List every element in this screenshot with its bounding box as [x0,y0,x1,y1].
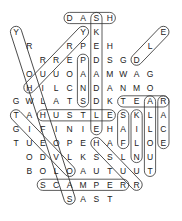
grid-letter[interactable]: F [117,137,129,149]
grid-letter[interactable]: T [10,137,22,149]
grid-letter[interactable]: C [50,179,62,191]
grid-letter[interactable]: S [37,179,49,191]
grid-letter[interactable]: O [23,151,35,163]
grid-letter[interactable]: P [64,137,76,149]
grid-letter[interactable]: L [144,123,156,135]
grid-letter[interactable]: S [90,12,102,24]
grid-letter[interactable]: N [77,82,89,94]
grid-letter[interactable]: E [104,179,116,191]
grid-letter[interactable]: B [23,165,35,177]
grid-letter[interactable]: U [90,165,102,177]
grid-letter[interactable]: O [64,165,76,177]
grid-letter[interactable]: L [90,109,102,121]
grid-letter[interactable]: U [37,68,49,80]
grid-letter[interactable]: T [10,109,22,121]
grid-letter[interactable]: L [50,82,62,94]
grid-letter[interactable]: R [37,54,49,66]
grid-letter[interactable]: H [90,137,102,149]
grid-letter[interactable]: U [117,165,129,177]
grid-letter[interactable]: O [37,165,49,177]
grid-letter[interactable]: S [77,95,89,107]
grid-letter[interactable]: I [23,123,35,135]
grid-letter[interactable]: K [90,26,102,38]
grid-letter[interactable]: G [117,54,129,66]
grid-letter[interactable]: S [104,151,116,163]
grid-letter[interactable]: N [131,151,143,163]
grid-letter[interactable]: U [144,151,156,163]
grid-letter[interactable]: H [104,12,116,24]
grid-letter[interactable]: W [23,95,35,107]
grid-letter[interactable]: E [157,26,169,38]
grid-letter[interactable]: F [37,123,49,135]
grid-letter[interactable]: A [90,68,102,80]
grid-letter[interactable]: S [117,109,129,121]
grid-letter[interactable]: R [157,95,169,107]
grid-letter[interactable]: E [37,137,49,149]
grid-letter[interactable]: M [104,68,116,80]
grid-letter[interactable]: R [131,179,143,191]
grid-letter[interactable]: S [90,193,102,205]
grid-letter[interactable]: L [144,109,156,121]
grid-letter[interactable]: R [64,40,76,52]
grid-letter[interactable]: T [117,95,129,107]
grid-letter[interactable]: U [50,68,62,80]
grid-letter[interactable]: A [104,137,116,149]
grid-letter[interactable]: C [64,82,76,94]
grid-letter[interactable]: U [23,137,35,149]
grid-letter[interactable]: E [90,40,102,52]
grid-letter[interactable]: A [77,165,89,177]
grid-letter[interactable]: G [10,123,22,135]
grid-letter[interactable]: L [144,40,156,52]
grid-letter[interactable]: T [104,165,116,177]
grid-letter[interactable]: A [117,123,129,135]
grid-letter[interactable]: E [104,109,116,121]
grid-letter[interactable]: T [144,165,156,177]
grid-letter[interactable]: D [90,95,102,107]
grid-letter[interactable]: M [131,82,143,94]
grid-letter[interactable]: P [90,179,102,191]
grid-letter[interactable]: A [50,95,62,107]
grid-letter[interactable]: C [157,123,169,135]
grid-letter[interactable]: D [64,12,76,24]
grid-letter[interactable]: G [144,68,156,80]
grid-letter[interactable]: K [104,95,116,107]
grid-letter[interactable]: S [64,109,76,121]
grid-letter[interactable]: E [131,95,143,107]
grid-letter[interactable]: V [50,151,62,163]
grid-letter[interactable]: M [77,179,89,191]
grid-letter[interactable]: H [23,82,35,94]
grid-letter[interactable]: T [64,95,76,107]
grid-letter[interactable]: L [64,151,76,163]
grid-letter[interactable]: A [144,95,156,107]
grid-letter[interactable]: K [77,151,89,163]
grid-letter[interactable]: I [77,123,89,135]
grid-letter[interactable]: R [23,40,35,52]
grid-letter[interactable]: T [77,109,89,121]
grid-letter[interactable]: W [117,68,129,80]
grid-letter[interactable]: A [23,109,35,121]
grid-letter[interactable]: S [90,151,102,163]
grid-letter[interactable]: E [64,54,76,66]
grid-letter[interactable]: A [157,109,169,121]
grid-letter[interactable]: I [37,82,49,94]
grid-letter[interactable]: A [77,68,89,80]
grid-letter[interactable]: Y [77,26,89,38]
grid-letter[interactable]: A [77,12,89,24]
grid-letter[interactable]: O [144,137,156,149]
grid-letter[interactable]: T [104,193,116,205]
grid-letter[interactable]: A [64,179,76,191]
grid-letter[interactable]: N [64,123,76,135]
grid-letter[interactable]: D [37,151,49,163]
grid-letter[interactable]: L [50,165,62,177]
grid-letter[interactable]: S [104,54,116,66]
grid-letter[interactable]: I [50,123,62,135]
grid-letter[interactable]: O [144,82,156,94]
grid-letter[interactable]: D [90,82,102,94]
grid-letter[interactable]: L [131,137,143,149]
grid-letter[interactable]: R [117,179,129,191]
grid-letter[interactable]: U [50,109,62,121]
grid-letter[interactable]: G [10,95,22,107]
grid-letter[interactable]: A [104,82,116,94]
grid-letter[interactable]: O [64,68,76,80]
grid-letter[interactable]: I [131,123,143,135]
